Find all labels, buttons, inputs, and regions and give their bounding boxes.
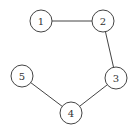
- nodes-layer: 12345: [11, 10, 127, 124]
- graph-diagram: 12345: [0, 0, 137, 132]
- node-4: 4: [60, 102, 82, 124]
- node-label: 4: [68, 108, 74, 119]
- node-1: 1: [30, 10, 52, 32]
- node-label: 1: [38, 16, 44, 27]
- edge-4-5: [31, 83, 62, 107]
- node-label: 3: [113, 73, 119, 84]
- node-2: 2: [92, 10, 114, 32]
- edge-3-4: [80, 85, 108, 106]
- node-label: 5: [19, 71, 25, 82]
- edges-layer: [31, 21, 114, 106]
- node-3: 3: [105, 67, 127, 89]
- edge-2-3: [105, 32, 113, 68]
- node-5: 5: [11, 65, 33, 87]
- node-label: 2: [100, 16, 106, 27]
- graph-svg: 12345: [0, 0, 137, 132]
